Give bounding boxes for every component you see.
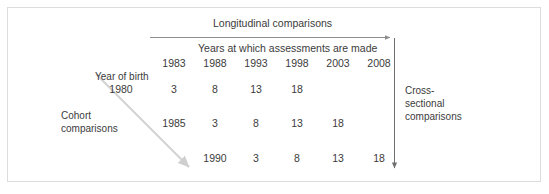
column-header-1993: 1993 — [239, 57, 273, 69]
cross-sectional-comparisons-label: Cross-sectionalcomparisons — [405, 85, 462, 123]
cross-sectional-line3: comparisons — [405, 111, 462, 122]
cohort-comparisons-line2: comparisons — [61, 123, 118, 134]
row-1980-age-1998: 18 — [280, 83, 314, 95]
column-header-2003: 2003 — [321, 57, 355, 69]
row-1980-age-1983: 3 — [157, 83, 191, 95]
row-1980-age-1988: 8 — [198, 83, 232, 95]
column-header-1983: 1983 — [157, 57, 191, 69]
cross-sectional-line1: Cross- — [405, 85, 434, 96]
row-1985-age-1993: 8 — [239, 117, 273, 129]
row-1990-birth-year: 1990 — [198, 152, 232, 164]
cohort-comparisons-line1: Cohort — [61, 110, 91, 121]
longitudinal-comparisons-label: Longitudinal comparisons — [213, 17, 332, 29]
row-1990-age-2003: 13 — [321, 152, 355, 164]
cross-sectional-line2: sectional — [405, 98, 444, 109]
years-assessments-header: Years at which assessments are made — [198, 42, 377, 54]
row-1985-age-2003: 18 — [321, 117, 355, 129]
row-1985-birth-year: 1985 — [157, 117, 191, 129]
cohort-comparisons-label: Cohortcomparisons — [61, 110, 118, 136]
row-1980-age-1993: 13 — [239, 83, 273, 95]
cohort-sequential-design-figure: Longitudinal comparisons Years at which … — [0, 0, 549, 194]
row-1990-age-1993: 3 — [239, 152, 273, 164]
column-header-1998: 1998 — [280, 57, 314, 69]
row-1985-age-1998: 13 — [280, 117, 314, 129]
row-1980-birth-year: 1980 — [104, 83, 138, 95]
row-1985-age-1988: 3 — [198, 117, 232, 129]
column-header-2008: 2008 — [362, 57, 396, 69]
column-header-1988: 1988 — [198, 57, 232, 69]
year-of-birth-label: Year of birth — [95, 71, 149, 83]
row-1990-age-1998: 8 — [280, 152, 314, 164]
row-1990-age-2008: 18 — [362, 152, 396, 164]
